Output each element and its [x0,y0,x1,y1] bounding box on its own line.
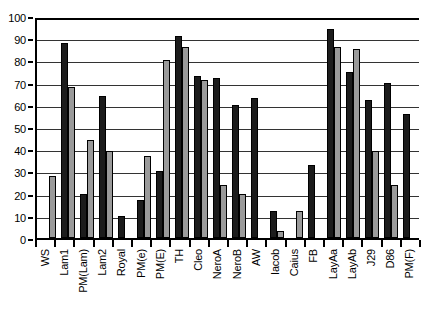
bar-group [96,18,115,238]
bar-group [248,18,267,238]
bar-group [172,18,191,238]
x-label-cell: LayAb [342,247,361,309]
bar [175,36,182,238]
y-tick-label: 30 [14,168,26,179]
x-tick-label: Lam2 [97,249,108,276]
x-tick-label: NeroB [231,249,242,279]
x-label-cell: D86 [381,247,400,309]
x-label-cell: PM(e) [131,247,150,309]
bar [144,156,151,238]
bar [163,60,170,238]
y-tick-mark [28,17,33,19]
x-tick-mark [246,240,248,247]
bar [99,96,106,238]
x-tick-mark [73,240,75,247]
bar [270,211,277,238]
x-label-cell: PM(E) [150,247,169,309]
x-tick-label: PM(e) [135,249,146,278]
bar-group [343,18,362,238]
x-tick-mark [150,240,152,247]
bar-group [229,18,248,238]
bar-group [134,18,153,238]
y-tick-label: 100 [8,13,26,24]
x-tick-mark [227,240,229,247]
x-label-cell: Lam1 [54,247,73,309]
plot-area [35,18,419,240]
x-tick-label: NeroA [212,249,223,279]
bar-group [191,18,210,238]
bar [403,114,410,238]
bar-groups [39,18,419,238]
y-tick-label: 0 [20,235,26,246]
x-tick-label: FB [308,249,319,263]
x-label-cell: AW [246,247,265,309]
x-tick-label: PM(F) [404,249,415,279]
x-tick-label: J29 [366,249,377,266]
x-label-cell: TH [169,247,188,309]
bar [391,185,398,238]
bar [49,176,56,238]
bar [87,140,94,238]
bar [353,49,360,238]
x-label-cell: Caius [285,247,304,309]
x-axis-ticks [35,240,419,247]
bar [308,165,315,238]
bar [80,194,87,238]
x-tick-label: D86 [385,249,396,269]
x-tick-label: WS [39,249,50,266]
bar-group [286,18,305,238]
y-tick-label: 80 [14,57,26,68]
x-tick-mark [208,240,210,247]
bar-group [362,18,381,238]
x-label-cell: WS [35,247,54,309]
x-tick-mark [285,240,287,247]
bar [232,105,239,238]
x-tick-label: PM(E) [154,249,165,279]
y-tick-mark [28,195,33,197]
bar [68,87,75,238]
x-tick-mark [304,240,306,247]
bar [118,216,125,238]
x-label-cell: PM(Lam) [73,247,92,309]
x-label-cell: PM(F) [400,247,419,309]
bar [251,98,258,238]
x-tick-mark [189,240,191,247]
x-tick-mark [112,240,114,247]
x-tick-mark [169,240,171,247]
x-tick-label: PM(Lam) [78,249,89,293]
x-label-cell: Royal [112,247,131,309]
y-tick-mark [28,172,33,174]
y-axis: 0102030405060708090100 [0,0,33,240]
bar-group [58,18,77,238]
bar [156,171,163,238]
bar [334,47,341,238]
x-tick-mark [381,240,383,247]
y-tick-label: 90 [14,35,26,46]
x-tick-mark [400,240,402,247]
x-label-cell: J29 [361,247,380,309]
x-label-cell: LayAa [323,247,342,309]
x-tick-mark [35,240,37,247]
bar-group [400,18,419,238]
x-label-cell: NeroB [227,247,246,309]
bar [327,29,334,238]
y-tick-label: 40 [14,146,26,157]
bar [220,185,227,238]
x-axis-labels: WSLam1PM(Lam)Lam2RoyalPM(e)PM(E)THCleoNe… [35,247,419,309]
bar [346,72,353,239]
x-tick-mark [419,240,421,247]
bar [106,151,113,238]
y-tick-label: 60 [14,101,26,112]
x-tick-label: Iacob [270,249,281,275]
bar [137,200,144,238]
x-tick-mark [342,240,344,247]
bar-group [210,18,229,238]
y-tick-mark [28,150,33,152]
y-tick-label: 50 [14,124,26,135]
x-tick-label: Lam1 [58,249,69,276]
bar [213,78,220,238]
bar [296,211,303,238]
y-tick-label: 20 [14,190,26,201]
y-tick-label: 10 [14,212,26,223]
x-label-cell: Iacob [265,247,284,309]
